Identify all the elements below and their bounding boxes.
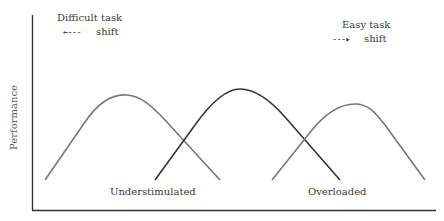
- difficult-shift-label: shift: [96, 26, 119, 37]
- difficult-task-label: Difficult task: [57, 12, 122, 23]
- easy-shift-label: shift: [364, 33, 387, 44]
- y-axis-label: Performance: [8, 83, 19, 153]
- right-shift-arrow-icon: ---▸: [332, 34, 350, 44]
- baseline-curve: [155, 89, 340, 180]
- difficult-task-curve: [45, 95, 220, 180]
- left-shift-arrow-icon: ←---: [63, 27, 81, 37]
- overloaded-label: Overloaded: [308, 186, 366, 197]
- easy-task-label: Easy task: [342, 19, 390, 30]
- easy-task-curve: [272, 104, 425, 180]
- understimulated-label: Understimulated: [110, 186, 196, 197]
